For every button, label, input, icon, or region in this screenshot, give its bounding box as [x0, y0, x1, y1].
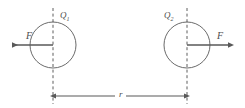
force-label-right: F — [217, 31, 223, 41]
distance-label: r — [117, 90, 125, 99]
charge-label-left: Q1 — [60, 11, 70, 22]
force-between-charges-diagram: Q1 Q2 F F r — [0, 0, 245, 108]
charge-label-right: Q2 — [164, 11, 174, 22]
force-label-left: F — [26, 31, 32, 41]
charge-label-right-subscript: 2 — [171, 16, 174, 22]
charge-label-left-subscript: 1 — [67, 16, 70, 22]
